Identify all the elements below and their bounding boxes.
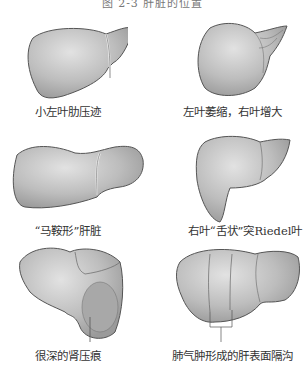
caption-saddle-shaped: “马鞍形”肝脏 bbox=[35, 222, 102, 238]
liver-figure-emphysema-grooves bbox=[170, 242, 300, 342]
caption-left-atrophy: 左叶萎缩，右叶增大 bbox=[183, 103, 282, 119]
liver-figure-small-left-lobe bbox=[18, 18, 128, 100]
liver-illustration bbox=[185, 18, 290, 98]
caption-riedel-lobe: 右叶“舌状”突Riedel叶 bbox=[188, 222, 303, 238]
liver-illustration bbox=[5, 135, 145, 210]
liver-illustration bbox=[185, 130, 295, 225]
liver-figure-deep-renal-impression bbox=[15, 242, 125, 342]
liver-figure-saddle-shaped bbox=[5, 135, 145, 210]
caption-deep-renal-impression: 很深的肾压痕 bbox=[35, 347, 101, 363]
figure-title: 图 2-3 肝脏的位置 bbox=[0, 0, 305, 10]
liver-illustration bbox=[15, 242, 125, 342]
liver-illustration bbox=[18, 18, 128, 100]
caption-small-left-lobe: 小左叶肋压迹 bbox=[35, 103, 101, 119]
liver-illustration bbox=[170, 242, 300, 342]
liver-figure-riedel-lobe bbox=[185, 130, 295, 225]
liver-figure-left-atrophy bbox=[185, 18, 290, 98]
caption-emphysema-grooves: 肺气肿形成的肝表面隔沟 bbox=[172, 347, 293, 363]
